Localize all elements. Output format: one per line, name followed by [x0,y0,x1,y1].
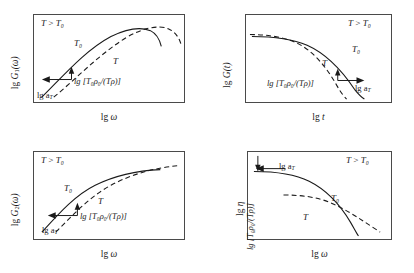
curve-label-T0: T₀ [64,183,72,193]
annotation-vertical-shift: lg [T₀ρ₀/(Tρ)] [74,76,121,86]
curve-label-T: T [113,56,118,66]
panel-g1-omega: lg G1(ω) lg ω T > T₀ T₀ T lg [T₀ρ₀/(Tρ)]… [0,0,207,136]
curve-label-T: T [98,196,103,206]
annotation-vertical-shift: lg [T₀ρ₀/(Tρ)] [80,211,127,221]
curve-label-T: T [303,212,308,222]
panel-g-t: lg G(t) lg t T > T₀ T₀ T lg [T₀ρ₀/(Tρ)] … [207,0,414,136]
curve-group [34,15,184,102]
curve-label-T0: T₀ [352,44,360,54]
annotation-horizontal-shift: lg aT [279,161,295,171]
annotation-horizontal-shift: lg aT [37,90,53,100]
curve-dashed-T [250,35,347,100]
curve-label-T: T [322,58,327,68]
y-axis-label: lg η [235,172,245,216]
curve-solid-T0 [252,37,364,100]
x-axis-label: lg ω [247,249,392,259]
figure-container: lg G1(ω) lg ω T > T₀ T₀ T lg [T₀ρ₀/(Tρ)]… [0,0,414,273]
condition-label: T > T₀ [41,18,64,28]
annotation-horizontal-shift: lg aT [355,83,371,93]
y-axis-label: lg G1(ω) [10,25,20,89]
curve-group [248,152,391,239]
curve-label-T0: T₀ [74,38,82,48]
panel-eta-omega: lg η lg [T₀ρ₀/(Tρ)] lg ω T > T₀ T₀ T lg … [207,137,414,273]
condition-label: T > T₀ [348,18,371,28]
annotation-horizontal-shift: lg aT [42,225,58,235]
condition-label: T > T₀ [41,155,64,165]
shift-arrow-horizontal [48,212,78,219]
annotation-vertical-shift: lg [T₀ρ₀/(Tρ)] [245,158,255,250]
condition-label: T > T₀ [346,155,369,165]
x-axis-label: lg ω [33,112,185,122]
y-axis-label: lg G(t) [222,26,232,88]
curve-solid-T0 [254,172,359,237]
y-axis-label: lg G2(ω) [10,162,20,226]
curve-label-T0: T₀ [331,193,339,203]
annotation-vertical-shift: lg [T₀ρ₀/(Tρ)] [267,78,314,88]
x-axis-label: lg t [245,112,392,122]
panel-g2-omega: lg G2(ω) lg ω T > T₀ T₀ T lg [T₀ρ₀/(Tρ)]… [0,137,207,273]
curve-solid-T0 [42,29,161,97]
plot-frame [247,151,392,240]
x-axis-label: lg ω [33,249,185,259]
